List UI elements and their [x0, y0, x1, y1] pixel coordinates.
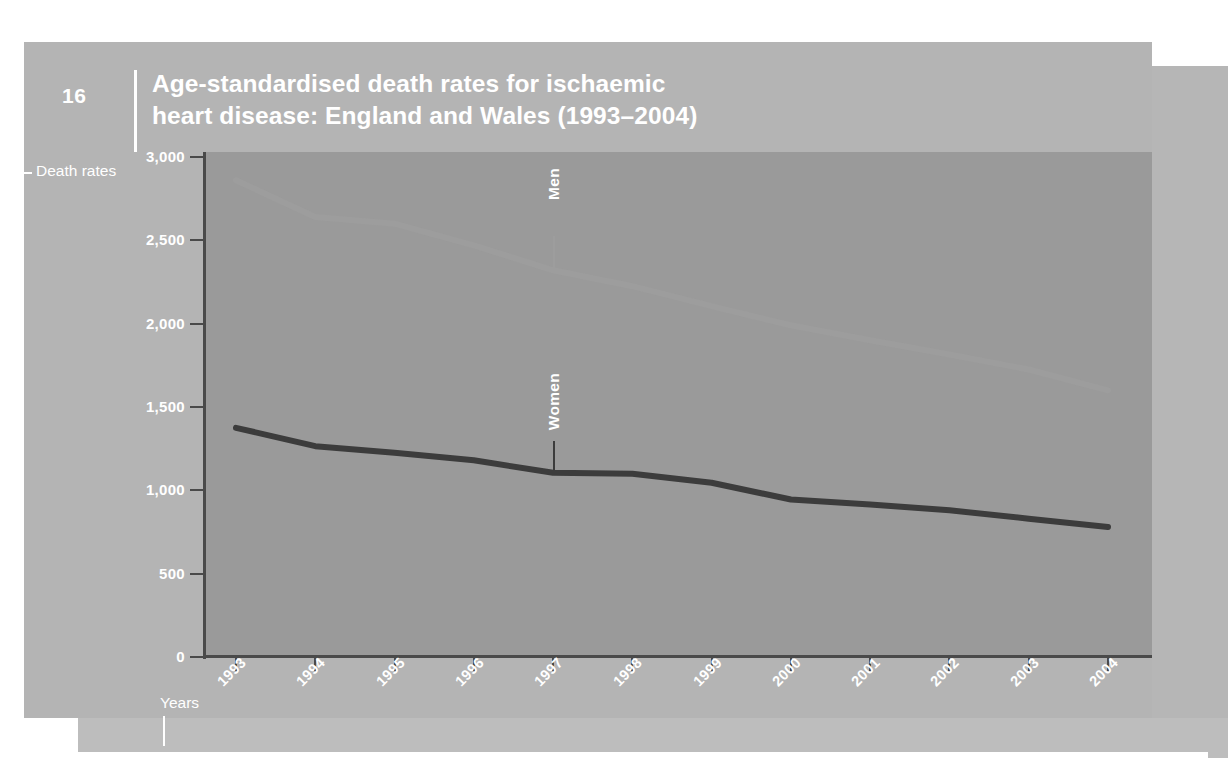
women-label-leader-line [553, 441, 555, 471]
women-series-label: Women [545, 373, 563, 430]
men-series-label: Men [545, 168, 563, 200]
panel-notch-right [1228, 42, 1232, 732]
women-series-line [236, 428, 1108, 527]
men-label-leader-line [553, 236, 555, 268]
men-series-line [236, 180, 1108, 390]
